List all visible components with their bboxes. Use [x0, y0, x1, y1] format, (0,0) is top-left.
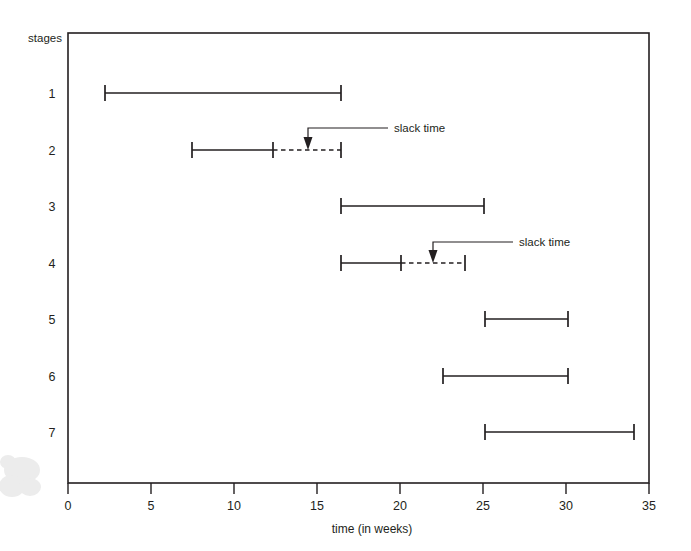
chart-background: [0, 0, 691, 551]
scan-artifact: [0, 455, 41, 497]
x-tick-label: 0: [65, 499, 72, 513]
stage-label-1: 1: [49, 87, 56, 101]
x-tick-label: 15: [310, 499, 324, 513]
chart-canvas: stages 0 5 10 15 20 25 30 35 time (in we…: [0, 0, 691, 551]
stage-label-2: 2: [49, 144, 56, 158]
x-tick-label: 5: [148, 499, 155, 513]
gantt-chart: stages 0 5 10 15 20 25 30 35 time (in we…: [0, 0, 691, 551]
stage-label-4: 4: [49, 257, 56, 271]
slack-time-label: slack time: [394, 122, 445, 134]
slack-time-label: slack time: [519, 236, 570, 248]
x-axis-title: time (in weeks): [332, 522, 413, 536]
x-tick-label: 35: [642, 499, 656, 513]
stage-label-3: 3: [49, 200, 56, 214]
x-tick-label: 20: [393, 499, 407, 513]
stage-label-5: 5: [49, 313, 56, 327]
stage-label-6: 6: [49, 370, 56, 384]
x-tick-label: 25: [476, 499, 490, 513]
x-tick-label: 30: [559, 499, 573, 513]
stage-label-7: 7: [49, 426, 56, 440]
x-tick-label: 10: [227, 499, 241, 513]
y-axis-title: stages: [28, 32, 62, 44]
